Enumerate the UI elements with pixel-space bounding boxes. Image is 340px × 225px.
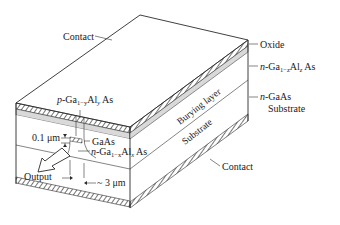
label-oxide: Oxide: [260, 39, 285, 50]
label-substrate-right: Substrate: [268, 103, 306, 114]
label-contact-bottom: Contact: [222, 161, 253, 172]
laser-structure-diagram: Contact Oxide n-Ga1−zAlz As n-GaAs Subst…: [0, 0, 340, 225]
label-width: ~ 3 μm: [97, 177, 126, 188]
label-n-gaalas-z: n-Ga1−zAlz As: [260, 61, 316, 73]
label-output: Output: [24, 171, 52, 182]
label-n-gaas: n-GaAs: [260, 91, 291, 102]
label-thickness: 0.1 μm: [32, 132, 60, 143]
label-contact-top: Contact: [63, 31, 94, 42]
